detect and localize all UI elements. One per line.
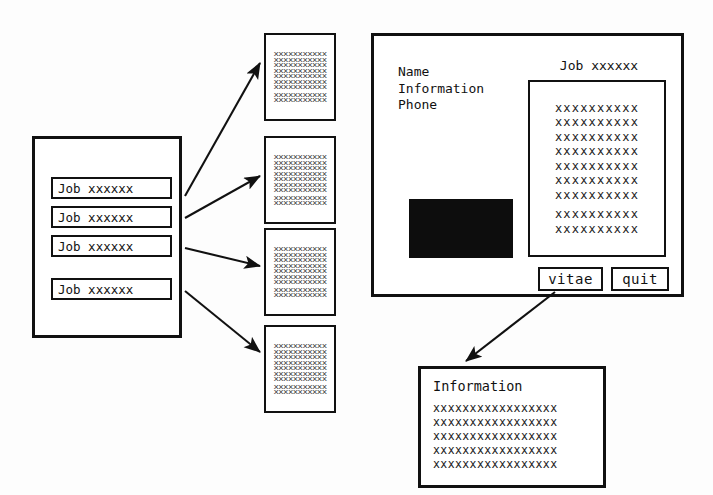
- job-list-row[interactable]: Job xxxxxx: [51, 206, 172, 228]
- photo-placeholder: [409, 199, 513, 258]
- information-window-body: xxxxxxxxxxxxxxxxx xxxxxxxxxxxxxxxxx xxxx…: [433, 401, 558, 471]
- thumbnail-content: xxxxxxxxxxx xxxxxxxxxxx xxxxxxxxxxx xxxx…: [273, 343, 326, 395]
- information-window: Information xxxxxxxxxxxxxxxxx xxxxxxxxxx…: [418, 366, 606, 488]
- document-thumbnail-4[interactable]: xxxxxxxxxxx xxxxxxxxxxx xxxxxxxxxxx xxxx…: [264, 325, 336, 413]
- vitae-button[interactable]: vitae: [538, 267, 603, 291]
- job-list-row[interactable]: Job xxxxxx: [51, 278, 172, 300]
- thumbnail-content: xxxxxxxxxxx xxxxxxxxxxx xxxxxxxxxxx xxxx…: [273, 51, 326, 103]
- document-thumbnail-3[interactable]: xxxxxxxxxxx xxxxxxxxxxx xxxxxxxxxxx xxxx…: [264, 228, 336, 316]
- detail-document-title: Job xxxxxx: [524, 58, 674, 73]
- detail-fields-text: Name Information Phone: [398, 64, 484, 114]
- detail-panel: Name Information Phone Job xxxxxx xxxxxx…: [371, 33, 684, 297]
- diagram-canvas: Job xxxxxx Job xxxxxx Job xxxxxx Job xxx…: [0, 0, 713, 495]
- detail-document-box: xxxxxxxxxx xxxxxxxxxx xxxxxxxxxx xxxxxxx…: [528, 80, 666, 257]
- arrow-job4-to-thumb4: [185, 291, 260, 352]
- job-list-row[interactable]: Job xxxxxx: [51, 235, 172, 257]
- job-list-panel: Job xxxxxx Job xxxxxx Job xxxxxx Job xxx…: [32, 136, 182, 338]
- job-list-row[interactable]: Job xxxxxx: [51, 177, 172, 199]
- arrow-vitae-to-information: [466, 292, 555, 361]
- arrow-job2-to-thumb2: [185, 176, 260, 218]
- quit-button[interactable]: quit: [611, 267, 669, 291]
- document-thumbnail-1[interactable]: xxxxxxxxxxx xxxxxxxxxxx xxxxxxxxxxx xxxx…: [264, 33, 336, 121]
- arrow-job1-to-thumb1: [185, 63, 260, 196]
- thumbnail-content: xxxxxxxxxxx xxxxxxxxxxx xxxxxxxxxxx xxxx…: [273, 154, 326, 206]
- document-thumbnail-2[interactable]: xxxxxxxxxxx xxxxxxxxxxx xxxxxxxxxxx xxxx…: [264, 136, 336, 224]
- information-window-title: Information: [433, 378, 522, 394]
- arrow-job3-to-thumb3: [185, 248, 260, 266]
- thumbnail-content: xxxxxxxxxxx xxxxxxxxxxx xxxxxxxxxxx xxxx…: [273, 246, 326, 298]
- detail-document-body: xxxxxxxxxx xxxxxxxxxx xxxxxxxxxx xxxxxxx…: [555, 101, 639, 237]
